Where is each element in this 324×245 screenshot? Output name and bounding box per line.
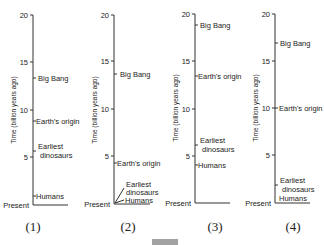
tick-5: 5 [24,153,28,162]
tick-5: 5 [186,152,190,161]
tick-10: 10 [20,106,28,115]
event-earth-origin: Earth's origin [117,159,161,168]
event-big-bang: Big Bang [38,74,68,83]
tick-15: 15 [20,58,28,67]
event-dinosaurs: dinosaurs [282,185,315,194]
panel-label-2: (2) [120,219,135,234]
y-axis-label: Time (billion years ago) [172,74,180,141]
panel-label-4: (4) [285,219,300,234]
event-big-bang: Big Bang [200,21,230,30]
event-earliest: Earliest [38,142,64,151]
tick-10: 10 [101,105,109,114]
panel-1: 20 15 10 5 Present Time (billion years a… [3,11,79,234]
tick-5: 5 [266,151,270,160]
event-humans: Humans [125,196,153,205]
cropped-text-fragment [152,239,178,245]
tick-20: 20 [20,11,28,20]
tick-20: 20 [101,11,109,20]
tick-present: Present [165,199,192,208]
tick-5: 5 [105,152,109,161]
panel-label-1: (1) [25,219,40,234]
event-earliest: Earliest [200,136,226,145]
event-humans: Humans [279,194,307,203]
event-earth-origin: Earth's origin [198,72,242,81]
tick-present: Present [3,201,30,210]
panel-label-3: (3) [207,219,222,234]
tick-present: Present [84,200,111,209]
tick-present: Present [245,199,272,208]
tick-10: 10 [262,104,270,113]
tick-15: 15 [182,57,190,66]
tick-15: 15 [101,57,109,66]
tick-10: 10 [182,105,190,114]
tick-20: 20 [182,10,190,19]
event-humans: Humans [198,161,226,170]
panel-3: 20 15 10 5 Present Time (billion years a… [165,10,241,234]
y-axis-label: Time (billion years ago) [91,76,99,143]
event-dinosaurs: dinosaurs [202,145,235,154]
event-earliest: Earliest [280,176,306,185]
tick-20: 20 [262,10,270,19]
event-earth-origin: Earth's origin [279,104,323,113]
y-axis-label: Time (billion years ago) [252,74,260,141]
event-big-bang: Big Bang [280,39,310,48]
tick-15: 15 [262,57,270,66]
panel-4: 20 15 10 5 Present Time (billion years a… [245,10,322,234]
event-earth-origin: Earth's origin [36,117,80,126]
event-dinosaurs: dinosaurs [40,151,73,160]
event-humans: Humans [36,192,64,201]
event-big-bang: Big Bang [120,70,150,79]
panel-2: 20 15 10 5 Present Time (billion years a… [84,11,160,234]
y-axis-label: Time (billion years ago) [10,76,18,143]
timeline-figure: 20 15 10 5 Present Time (billion years a… [0,0,324,245]
